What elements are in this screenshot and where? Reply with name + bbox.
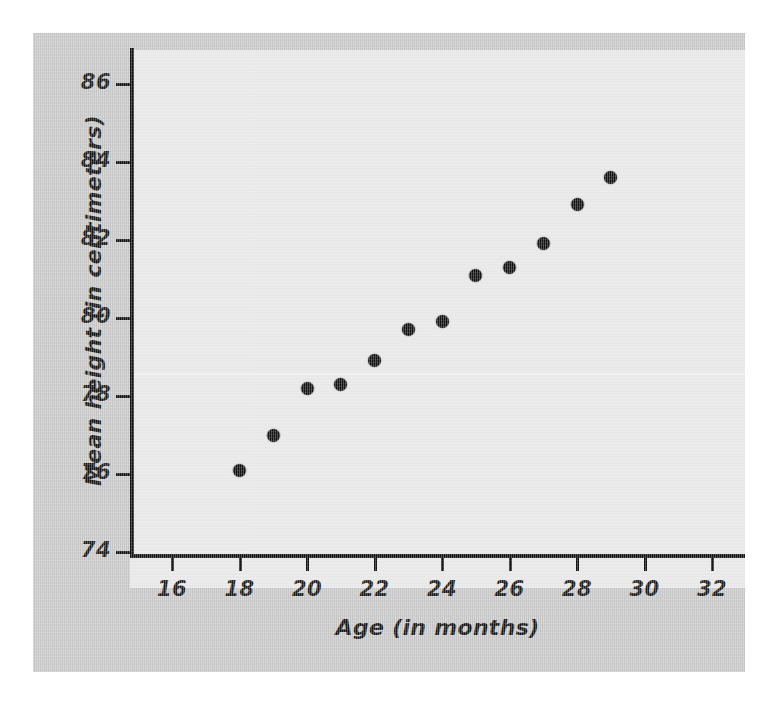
y-tick-84	[116, 161, 131, 164]
data-point	[334, 378, 347, 391]
chart-figure: 74767880828486 161820222426283032 Age (i…	[33, 33, 745, 672]
y-tick-86	[116, 83, 131, 86]
x-tick-label-24: 24	[412, 577, 472, 601]
x-tick-label-30: 30	[615, 577, 675, 601]
x-tick-label-20: 20	[277, 577, 337, 601]
x-tick-label-32: 32	[682, 577, 742, 601]
data-point	[503, 261, 516, 274]
data-point	[233, 464, 246, 477]
x-tick-label-16: 16	[142, 577, 202, 601]
x-axis-title: Age (in months)	[130, 615, 745, 640]
y-axis-line	[130, 48, 134, 557]
y-tick-76	[116, 473, 131, 476]
x-tick-32	[711, 557, 714, 571]
x-tick-label-22: 22	[345, 577, 405, 601]
x-tick-20	[306, 557, 309, 571]
data-point	[301, 382, 314, 395]
x-tick-16	[171, 557, 174, 571]
x-tick-24	[441, 557, 444, 571]
x-tick-22	[374, 557, 377, 571]
x-tick-label-28: 28	[547, 577, 607, 601]
y-axis-title: Mean height (in centimeters)	[81, 41, 106, 561]
x-tick-26	[509, 557, 512, 571]
x-tick-18	[239, 557, 242, 571]
y-tick-74	[116, 551, 131, 554]
x-tick-30	[644, 557, 647, 571]
data-point	[267, 429, 280, 442]
x-tick-label-26: 26	[480, 577, 540, 601]
data-point	[571, 198, 584, 211]
y-tick-78	[116, 395, 131, 398]
x-tick-28	[576, 557, 579, 571]
x-tick-label-18: 18	[210, 577, 270, 601]
page-canvas: 74767880828486 161820222426283032 Age (i…	[0, 0, 778, 711]
x-axis-line	[130, 554, 745, 558]
data-point	[402, 323, 415, 336]
y-tick-80	[116, 317, 131, 320]
y-tick-82	[116, 239, 131, 242]
data-point	[469, 269, 482, 282]
data-point	[436, 315, 449, 328]
